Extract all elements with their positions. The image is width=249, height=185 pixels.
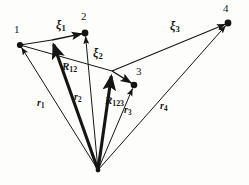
vector-R123 [98, 76, 111, 170]
xi2-subscript: 2 [98, 51, 102, 61]
node-dot-group [17, 20, 232, 173]
figure-root: 1 2 3 4 ξ1 ξ2 ξ3 R12 R123 r1 r2 r3 r4 [0, 0, 249, 185]
r2-subscript: 2 [78, 96, 82, 104]
r3-subscript: 3 [128, 109, 132, 117]
vector-xi2 [112, 71, 132, 83]
node-label-4: 4 [223, 3, 229, 14]
r1-subscript: 1 [41, 102, 45, 110]
vector-label-r3: r3 [124, 105, 131, 117]
vector-label-xi1: ξ1 [56, 19, 66, 33]
node-label-3: 3 [136, 66, 142, 77]
node-dot-3 [131, 82, 138, 89]
r4-subscript: 4 [164, 105, 168, 113]
vector-xi1 [52, 34, 83, 40]
vector-xi3 [112, 24, 225, 71]
vector-label-R123: R123 [105, 95, 124, 108]
vector-label-r2: r2 [74, 92, 81, 104]
vector-label-xi2: ξ2 [93, 47, 103, 61]
R123-subscript: 123 [112, 99, 124, 108]
node-dot-1 [17, 42, 23, 48]
node-label-2: 2 [81, 11, 87, 22]
xi1-subscript: 1 [61, 23, 65, 33]
vector-label-r1: r1 [37, 98, 44, 110]
xi3-subscript: 3 [175, 24, 179, 34]
R12-subscript: 12 [69, 65, 77, 74]
node-dot-2 [82, 30, 89, 37]
node-dot-4 [225, 20, 232, 27]
jacobi-vector-diagram [0, 0, 249, 185]
node-label-1: 1 [14, 24, 20, 35]
vector-label-R12: R12 [62, 61, 77, 74]
origin-dot [96, 168, 101, 173]
vector-label-xi3: ξ3 [170, 20, 180, 34]
vector-label-r4: r4 [160, 101, 167, 113]
connector-line [20, 40, 52, 45]
